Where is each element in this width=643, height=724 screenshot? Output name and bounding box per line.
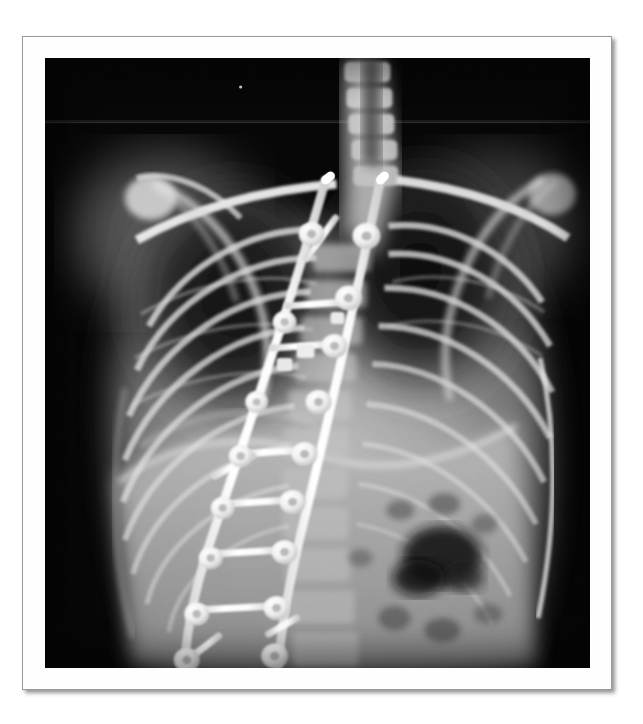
framed-photograph xyxy=(22,36,612,690)
film-grain xyxy=(45,58,590,668)
xray-image xyxy=(45,58,590,668)
radiograph-canvas xyxy=(45,58,590,668)
photo-matte xyxy=(23,37,611,689)
